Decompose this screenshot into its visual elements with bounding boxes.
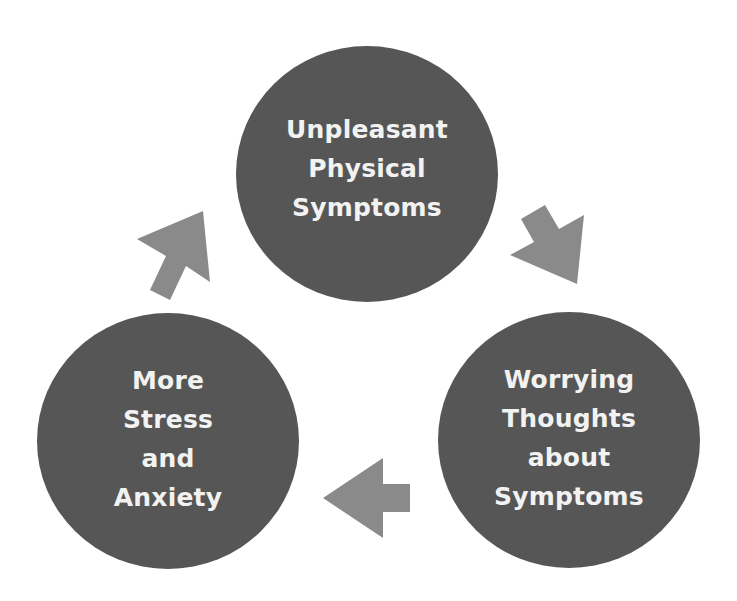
- node-worrying-thoughts: Worrying Thoughts about Symptoms: [438, 312, 700, 568]
- arrow-left-icon: [323, 458, 410, 538]
- node-more-stress-anxiety: More Stress and Anxiety: [37, 313, 299, 569]
- node-unpleasant-physical-symptoms: Unpleasant Physical Symptoms: [236, 46, 498, 302]
- node-label: Worrying Thoughts about Symptoms: [494, 360, 644, 516]
- node-label: More Stress and Anxiety: [114, 361, 222, 517]
- cycle-diagram: Unpleasant Physical Symptoms Worrying Th…: [0, 0, 737, 601]
- node-label: Unpleasant Physical Symptoms: [286, 110, 448, 227]
- arrow-down-right-icon: [510, 205, 584, 284]
- arrow-up-right-icon: [137, 211, 210, 300]
